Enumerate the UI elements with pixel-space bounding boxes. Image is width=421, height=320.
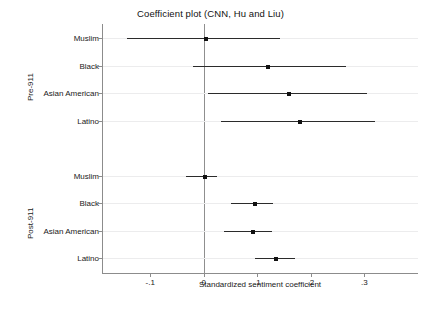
y-axis-tick (98, 66, 102, 67)
y-axis-tick (98, 38, 102, 39)
point-estimate-marker (203, 175, 207, 179)
y-axis-category-label: Latino (77, 116, 99, 125)
zero-reference-line (204, 24, 205, 274)
y-axis-category-label: Black (79, 199, 99, 208)
point-estimate-marker (251, 230, 255, 234)
y-axis-category-label: Asian American (43, 89, 99, 98)
x-axis-label: Standardized sentiment coefficient (102, 280, 418, 289)
y-axis-category-label: Muslim (74, 34, 99, 43)
gridline (103, 176, 418, 177)
y-axis-line (102, 24, 103, 274)
confidence-interval-line (224, 231, 272, 232)
y-axis-category-label: Latino (77, 254, 99, 263)
coefficient-plot-figure: Coefficient plot (CNN, Hu and Liu) Pre-9… (0, 0, 421, 320)
x-axis-tick (257, 274, 258, 277)
x-axis-tick (150, 274, 151, 277)
confidence-interval-line (186, 176, 217, 177)
y-axis-category-label: Black (79, 61, 99, 70)
point-estimate-marker (287, 92, 291, 96)
y-axis-tick (98, 258, 102, 259)
y-axis-tick (98, 93, 102, 94)
point-estimate-marker (266, 65, 270, 69)
category-label-column: MuslimBlackAsian AmericanLatinoMuslimBla… (0, 24, 99, 274)
x-axis-tick (311, 274, 312, 277)
page-title: Coefficient plot (CNN, Hu and Liu) (0, 8, 421, 19)
y-axis-category-label: Muslim (74, 171, 99, 180)
y-axis-tick (98, 121, 102, 122)
x-axis-tick (204, 274, 205, 277)
y-axis-tick (98, 231, 102, 232)
point-estimate-marker (204, 37, 208, 41)
plot-area: -.10.1.2.3 (102, 24, 418, 274)
point-estimate-marker (298, 120, 302, 124)
y-axis-category-label: Asian American (43, 226, 99, 235)
x-axis-tick (364, 274, 365, 277)
point-estimate-marker (274, 257, 278, 261)
point-estimate-marker (253, 202, 257, 206)
y-axis-tick (98, 203, 102, 204)
y-axis-tick (98, 176, 102, 177)
